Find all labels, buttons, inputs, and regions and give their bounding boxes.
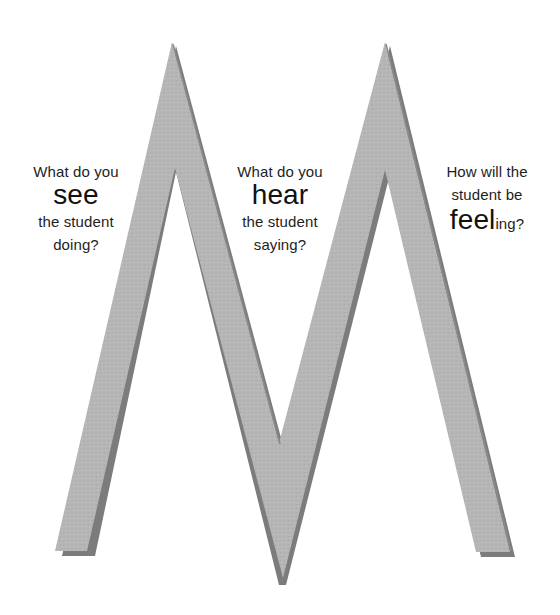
- m-edge-right-peak: [386, 44, 511, 551]
- prompt-hear: What do you hear the student saying?: [224, 160, 336, 256]
- prompt-feel-keyword: feel: [450, 208, 496, 232]
- prompt-feel-suffix: ing?: [495, 215, 524, 232]
- prompt-see: What do you see the student doing?: [20, 160, 132, 256]
- prompt-see-line3: the student: [20, 210, 132, 233]
- prompt-see-line4: doing?: [20, 233, 132, 256]
- prompt-feel-line1: How will the: [428, 160, 546, 183]
- prompt-hear-line3: the student: [224, 210, 336, 233]
- prompt-hear-line4: saying?: [224, 233, 336, 256]
- prompt-hear-keyword: hear: [252, 183, 308, 207]
- prompt-feel: How will the student be feeling?: [428, 160, 546, 235]
- m-letter-shape: [0, 0, 560, 615]
- m-face: [55, 42, 510, 578]
- prompt-see-keyword: see: [53, 183, 98, 207]
- prompt-feel-line2: student be: [428, 183, 546, 206]
